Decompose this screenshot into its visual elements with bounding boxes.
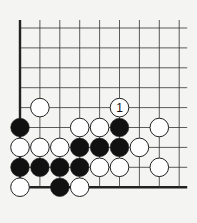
- black-stone: [11, 158, 30, 177]
- black-stone: [31, 158, 50, 177]
- black-stone: [70, 158, 89, 177]
- white-stone: [31, 98, 50, 117]
- black-stone: [11, 118, 30, 137]
- move-number-label: 1: [116, 101, 123, 115]
- black-stone: [110, 138, 129, 157]
- black-stone: [51, 158, 70, 177]
- white-stone: [70, 178, 89, 197]
- white-stone: [31, 138, 50, 157]
- go-board-diagram: 1: [0, 0, 197, 223]
- black-stone: [90, 138, 109, 157]
- black-stone: [51, 178, 70, 197]
- white-stone: [11, 138, 30, 157]
- white-stone: [51, 138, 70, 157]
- white-stone: [110, 158, 129, 177]
- white-stone: [130, 138, 149, 157]
- white-stone: [70, 118, 89, 137]
- white-stone-move-1: 1: [110, 98, 129, 117]
- black-stone: [70, 138, 89, 157]
- black-stone: [110, 118, 129, 137]
- white-stone: [150, 118, 169, 137]
- white-stone: [150, 158, 169, 177]
- white-stone: [90, 158, 109, 177]
- white-stone: [90, 118, 109, 137]
- white-stone: [11, 178, 30, 197]
